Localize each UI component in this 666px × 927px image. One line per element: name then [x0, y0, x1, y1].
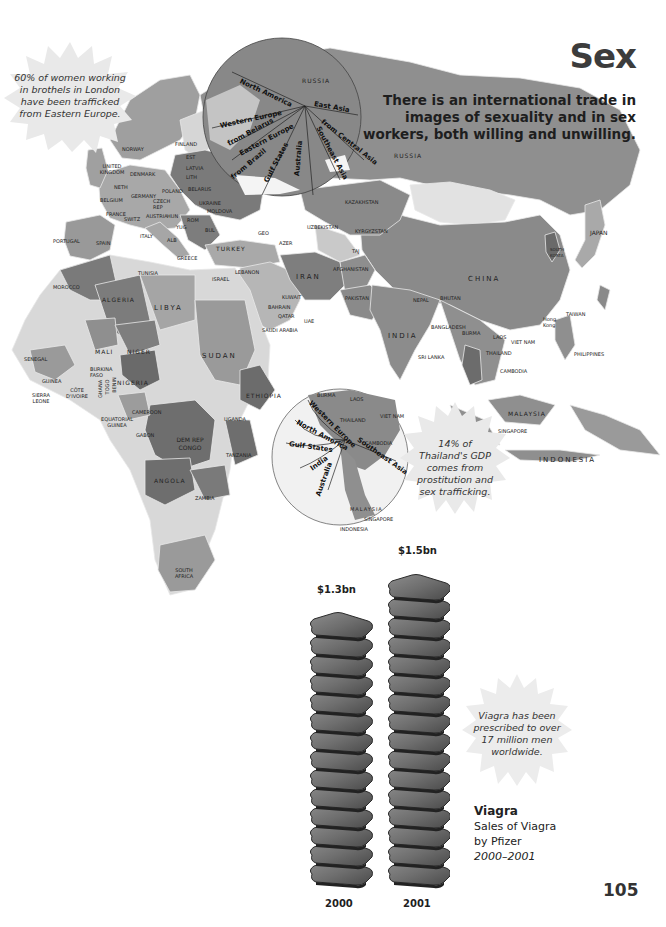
label-cote-divoire: CÔTE D'IVOIRE [62, 387, 92, 399]
label-ghana: GHANA [97, 380, 103, 398]
label-russia-2: RUSSIA [394, 153, 422, 159]
label-sudan: SUDAN [202, 353, 237, 359]
page-number: 105 [603, 880, 639, 900]
label-uk: UNITED KINGDOM [97, 163, 127, 175]
label-belgium: BELGIUM [100, 197, 123, 203]
label-france: FRANCE [106, 211, 126, 217]
label-denmark: DENMARK [130, 171, 155, 177]
label-nigeria: NIGERIA [117, 380, 149, 386]
label-bangladesh: BANGLADESH [431, 324, 466, 330]
label-saudi: SAUDI ARABIA [262, 327, 298, 333]
label-finland: FINLAND [175, 141, 197, 147]
stack-2001 [388, 575, 450, 889]
label-cambodia: CAMBODIA [500, 368, 527, 374]
label-azer: AZER [279, 240, 292, 246]
inset-label-laos: LAOS [350, 396, 363, 402]
label-niger: NIGER [127, 349, 151, 355]
label-sri-lanka: SRI LANKA [418, 354, 444, 360]
label-libya: LIBYA [154, 305, 183, 311]
label-uzbekistan: UZBEKISTAN [307, 224, 338, 230]
legend-line-1: Sales of Viagra [474, 819, 556, 834]
label-spain: SPAIN [96, 240, 111, 246]
label-south-africa: SOUTH AFRICA [170, 567, 198, 579]
label-viet-nam: VIET NAM [511, 339, 535, 345]
label-turkey: TURKEY [216, 246, 246, 252]
label-nepal: NEPAL [413, 297, 429, 303]
label-alb: ALB [167, 237, 177, 243]
label-lith: LITH [186, 174, 197, 180]
legend-title: Viagra [474, 804, 556, 819]
label-bahrain: BAHRAIN [268, 304, 291, 310]
label-thailand: THAILAND [486, 350, 512, 356]
label-neth: NETH [114, 184, 128, 190]
label-tanzania: TANZANIA [226, 452, 251, 458]
label-algeria: ALGERIA [102, 297, 135, 303]
label-austria: AUSTRIA [146, 213, 168, 219]
label-iran: IRAN [296, 274, 321, 280]
label-eq-guinea: EQUATORIAL GUINEA [101, 416, 133, 428]
label-kyrgyzstan: KYRGYZSTAN [355, 228, 388, 234]
label-guinea: GUINEA [42, 378, 61, 384]
inset-label-singapore: SINGAPORE [364, 516, 393, 522]
label-ethiopia: ETHIOPIA [246, 393, 282, 399]
label-moldova: MOLDOVA [207, 208, 232, 214]
label-yug: YUG [176, 224, 187, 230]
label-zambia: ZAMBIA [195, 495, 215, 501]
label-tunisia: TUNISIA [138, 270, 158, 276]
callout-viagra: Viagra has been prescribed to over 17 mi… [470, 710, 564, 758]
label-switz: SWITZ [124, 216, 140, 222]
label-italy: ITALY [140, 233, 153, 239]
label-laos: LAOS [493, 334, 506, 340]
label-china: CHINA [468, 276, 500, 282]
label-burma: BURMA [462, 330, 480, 336]
label-belarus: BELARUS [188, 186, 211, 192]
label-cameroon: CAMEROON [132, 409, 161, 415]
label-ukraine: UKRAINE [199, 200, 221, 206]
label-south-korea: SOUTH KOREA [550, 247, 570, 259]
legend-years: 2000–2001 [474, 849, 556, 864]
inset-label-malaysia: MALAYSIA [350, 506, 383, 512]
callout-london: 60% of women working in brothels in Lond… [14, 72, 126, 120]
page-subtitle: There is an international trade in image… [336, 92, 636, 143]
label-benin: BENIN [111, 377, 117, 393]
bar-year-2000: 2000 [325, 898, 353, 909]
label-taj: TAJ [352, 248, 360, 254]
bar-year-2001: 2001 [403, 898, 431, 909]
label-poland: POLAND [162, 188, 183, 194]
label-togo: TOGO [104, 380, 110, 395]
label-indonesia: INDONESIA [539, 457, 596, 463]
label-gabon: GABON [136, 432, 154, 438]
inset-label-burma: BURMA [317, 392, 335, 398]
bar-label-2001: $1.5bn [398, 545, 437, 556]
label-uae: UAE [304, 318, 314, 324]
label-latvia: LATVIA [186, 165, 203, 171]
label-malaysia: MALAYSIA [508, 411, 546, 417]
label-greece: GREECE [177, 255, 197, 261]
callout-thailand: 14% of Thailand's GDP comes from prostit… [415, 438, 495, 498]
label-senegal: SENEGAL [24, 356, 47, 362]
label-taiwan: TAIWAN [566, 311, 585, 317]
label-rom: ROM [187, 217, 199, 223]
label-est: EST [186, 154, 195, 160]
label-czech: CZECH REP [153, 198, 167, 210]
label-drc: DEM REP CONGO [176, 436, 204, 452]
label-qatar: QATAR [278, 313, 295, 319]
label-bul: BUL [205, 227, 215, 233]
label-kuwait: KUWAIT [282, 294, 301, 300]
label-uganda: UGANDA [224, 416, 246, 422]
inset-label-indonesia: INDONESIA [340, 526, 368, 532]
page-title: Sex [570, 36, 636, 76]
label-hong-kong: Hong Kong [543, 316, 561, 328]
stack-2000 [310, 613, 372, 889]
label-mali: MALI [95, 349, 113, 355]
label-japan: JAPAN [590, 230, 608, 236]
legend-line-2: by Pfizer [474, 834, 556, 849]
label-sierra-leone: SIERRA LEONE [30, 392, 52, 404]
chart-legend: Viagra Sales of Viagra by Pfizer 2000–20… [474, 804, 556, 864]
label-lebanon: LEBANON [235, 269, 259, 275]
label-bhutan: BHUTAN [440, 295, 461, 301]
label-hun: HUN [167, 213, 178, 219]
label-angola: ANGOLA [154, 478, 186, 484]
label-russia: RUSSIA [302, 78, 330, 84]
label-pakistan: PAKISTAN [345, 295, 369, 301]
